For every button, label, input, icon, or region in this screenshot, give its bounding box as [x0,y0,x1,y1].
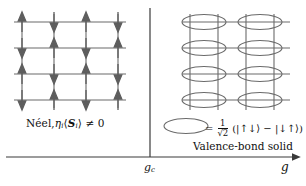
ket-bracket: ⟩ [78,117,82,129]
axis-label-g: g [281,160,289,174]
neel-caption-prefix: Néel, [26,117,55,129]
critical-point-label: gc [144,161,155,174]
vbs-dimer-ellipses [182,15,282,108]
vbs-singlet-formula: = 1 √2 (|↑↓⟩ − |↓↑⟩) [205,119,303,137]
neel-order-relation: ≠ 0 [85,117,104,129]
singlet-state-kets: (|↑↓⟩ − |↓↑⟩) [232,123,303,134]
gc-subscript: c [151,166,155,174]
figure-canvas [0,0,306,186]
vbs-phase-caption: Valence-bond solid [193,140,293,152]
neel-phase-caption: Néel,ηi⟨Si⟩ ≠ 0 [26,117,105,130]
neel-spin-arrows [18,12,122,110]
one-over-sqrt-two: 1 √2 [215,119,230,137]
fraction-denominator: √2 [215,129,230,138]
phase-diagram-figure: Néel,ηi⟨Si⟩ ≠ 0 = 1 √2 (|↑↓⟩ − |↓↑⟩) Val… [0,0,306,186]
legend-dimer-icon [164,119,208,134]
neel-lattice [14,14,126,108]
equals-sign: = [205,123,213,134]
gc-symbol: g [144,161,151,174]
